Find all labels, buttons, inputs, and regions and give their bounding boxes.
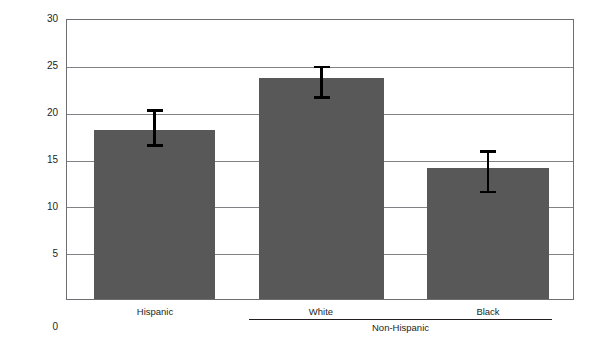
bar-white xyxy=(259,78,384,299)
bar-chart: Percentage 30 25 20 15 10 5 0 xyxy=(0,0,589,345)
errorbar-cap-top xyxy=(147,109,163,112)
y-tick-label-20: 20 xyxy=(4,108,58,118)
errorbar-cap-bottom xyxy=(147,144,163,147)
bar-hispanic xyxy=(94,130,215,299)
y-tick-label-5: 5 xyxy=(4,249,58,259)
errorbar-cap-top xyxy=(314,66,330,69)
y-tick-label-10: 10 xyxy=(4,202,58,212)
caption-sliver xyxy=(150,336,450,345)
y-tick-label-15: 15 xyxy=(4,155,58,165)
errorbar-cap-bottom xyxy=(314,96,330,99)
group-bracket-rule xyxy=(249,319,552,320)
errorbar-cap-top xyxy=(480,150,496,153)
group-label-non-hispanic: Non-Hispanic xyxy=(249,322,552,333)
x-label-white: White xyxy=(258,306,384,317)
errorbar-stem xyxy=(153,109,155,147)
errorbar-stem xyxy=(320,66,322,99)
y-tick-label-0: 0 xyxy=(4,322,58,332)
errorbar-stem xyxy=(487,150,489,193)
y-tick-label-30: 30 xyxy=(4,14,58,24)
x-label-hispanic: Hispanic xyxy=(95,306,215,317)
plot-area xyxy=(66,19,574,300)
x-label-black: Black xyxy=(426,306,550,317)
y-tick-label-25: 25 xyxy=(4,61,58,71)
errorbar-cap-bottom xyxy=(480,191,496,194)
